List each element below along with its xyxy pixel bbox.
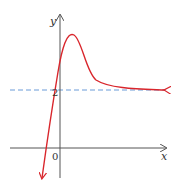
origin-label: 0 <box>52 151 58 162</box>
asymptote-label: 2 <box>52 87 58 98</box>
x-axis-label: x <box>161 150 168 163</box>
y-axis-label: y <box>49 15 57 28</box>
function-graph: y x 0 2 <box>0 0 180 185</box>
